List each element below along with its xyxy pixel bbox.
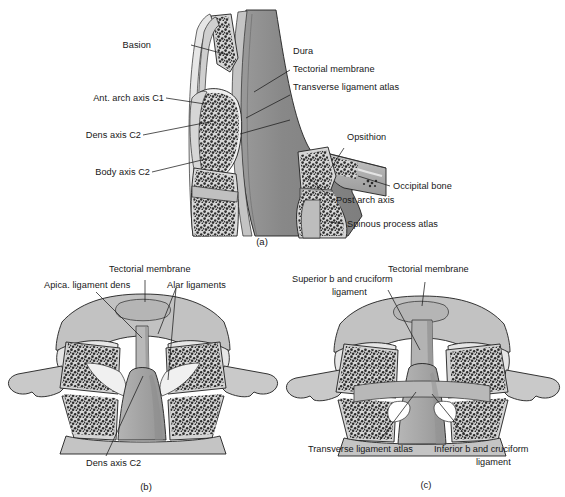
- label-apical-ligament-dens: Apica. ligament dens: [44, 280, 131, 290]
- label-dens-axis-c2-b: Dens axis C2: [86, 458, 141, 468]
- label-dens-axis-c2-a: Dens axis C2: [86, 130, 141, 140]
- label-dura: Dura: [293, 46, 314, 56]
- label-ant-arch-axis-c1: Ant. arch axis C1: [93, 93, 164, 103]
- label-transverse-ligament-atlas-a: Transverse ligament atlas: [293, 82, 399, 92]
- caption-panel-a: (a): [256, 236, 268, 247]
- panel-a-illustration: Basion Ant. arch axis C1 Dens axis C2 Bo…: [0, 0, 565, 250]
- panel-b-illustration: Apica. ligament dens Tectorial membrane …: [0, 250, 285, 497]
- label-tectorial-membrane-b: Tectorial membrane: [109, 264, 191, 274]
- label-transverse-ligament-atlas-c: Transverse ligament atlas: [308, 444, 413, 454]
- label-inferior-cruciform-line2: ligament: [476, 457, 511, 467]
- label-basion: Basion: [123, 40, 151, 50]
- label-tectorial-membrane-c: Tectorial membrane: [388, 264, 469, 274]
- panel-c-illustration: Superior b and cruciform ligament Tector…: [280, 250, 565, 497]
- label-occipital-bone: Occipital bone: [393, 181, 452, 191]
- label-alar-ligaments: Alar ligaments: [167, 280, 226, 290]
- label-body-axis-c2: Body axis C2: [95, 167, 150, 177]
- caption-panel-c: (c): [420, 479, 431, 490]
- label-superior-cruciform-line1: Superior b and cruciform: [292, 274, 393, 284]
- label-spinous-process-atlas: Spinous process atlas: [347, 219, 438, 229]
- label-inferior-cruciform-line1: Inferior b and cruciform: [434, 444, 529, 454]
- figure-root: Basion Ant. arch axis C1 Dens axis C2 Bo…: [0, 0, 565, 497]
- label-opsithion: Opsithion: [347, 132, 386, 142]
- label-tectorial-membrane-a: Tectorial membrane: [293, 64, 375, 74]
- label-superior-cruciform-line2: ligament: [332, 287, 367, 297]
- caption-panel-b: (b): [140, 481, 152, 492]
- label-post-arch-axis: Post arch axis: [336, 195, 395, 205]
